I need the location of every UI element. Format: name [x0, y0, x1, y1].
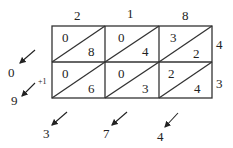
cell-ones: 2: [193, 46, 200, 61]
arrow-icon: [165, 113, 178, 127]
result-digit: 4: [157, 129, 164, 144]
cell-ones: 4: [194, 81, 201, 96]
cell-ones: 3: [142, 81, 149, 96]
arrow-icon: [22, 83, 35, 96]
multiplicand-digit: 2: [74, 8, 81, 23]
cell-tens: 0: [118, 30, 125, 45]
result-digit: 3: [43, 126, 50, 141]
result-digit: 0: [8, 65, 15, 80]
multiplicand-digit: 1: [127, 6, 134, 21]
cell-tens: 3: [170, 30, 177, 45]
cell-ones: 8: [88, 44, 95, 59]
cell-tens: 2: [168, 66, 175, 81]
lattice-diagram: 2 1 8 4 3 0 8 0 4 3 2 0 6 0 3 2 4 0 9 +1…: [0, 0, 233, 148]
result-digit: 9: [11, 93, 18, 108]
result-digit: 7: [103, 126, 110, 141]
cell-tens: 0: [62, 30, 69, 45]
multiplier-digit: 3: [216, 76, 223, 91]
multiplicand-digit: 8: [182, 8, 189, 23]
multiplier-digit: 4: [216, 37, 223, 52]
cell-ones: 6: [88, 81, 95, 96]
cell-tens: 0: [118, 66, 125, 81]
arrow-icon: [52, 112, 67, 125]
arrow-icon: [20, 50, 35, 63]
lattice-grid: [52, 26, 212, 98]
carry-label: +1: [38, 77, 47, 86]
cell-tens: 0: [62, 66, 69, 81]
cell-ones: 4: [142, 44, 149, 59]
arrow-icon: [112, 112, 127, 125]
